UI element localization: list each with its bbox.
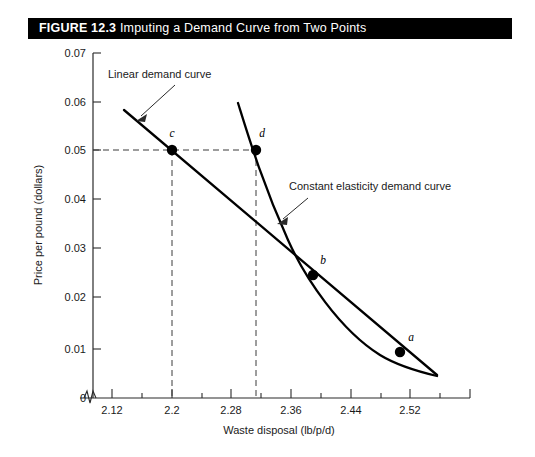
- x-axis-tick-labels: 2.12 2.2 2.28 2.36 2.44 2.52: [101, 404, 420, 416]
- data-point-label-d: d: [259, 127, 265, 139]
- y-tick-label: 0.05: [65, 144, 86, 156]
- data-point-d: [251, 145, 261, 155]
- x-axis-ticks: [112, 389, 470, 398]
- data-point-b: [308, 270, 318, 280]
- annotation-linear-leader-line: [141, 85, 175, 116]
- x-tick-label: 2.28: [220, 404, 241, 416]
- data-point-label-a: a: [408, 331, 414, 343]
- y-tick-label: 0.04: [65, 193, 86, 205]
- x-tick-label: 2.44: [340, 404, 361, 416]
- data-point-c: [167, 145, 177, 155]
- annotation-elasticity-leader-line: [283, 198, 308, 219]
- data-point-label-b: b: [320, 254, 326, 266]
- y-tick-label: 0.03: [65, 242, 86, 254]
- x-tick-label: 2.52: [399, 404, 420, 416]
- x-tick-label: 2.36: [280, 404, 301, 416]
- y-axis-ticks: [93, 53, 101, 349]
- data-point-a: [395, 347, 405, 357]
- x-tick-label: 2.12: [101, 404, 122, 416]
- data-point-label-c: c: [169, 127, 174, 139]
- y-axis-title: Price per pound (dollars): [32, 165, 44, 285]
- y-tick-label: 0.01: [65, 343, 86, 355]
- y-tick-label: 0.07: [65, 47, 86, 59]
- y-tick-label: 0.06: [65, 96, 86, 108]
- annotation-constant-elasticity-label: Constant elasticity demand curve: [289, 180, 451, 192]
- annotation-linear-demand-curve-label: Linear demand curve: [108, 68, 211, 80]
- x-tick-label: 2.2: [164, 404, 179, 416]
- y-tick-label: 0: [80, 392, 86, 404]
- chart-plot: 0.07 0.06 0.05 0.04 0.03 0.02 0.01 0 Pri…: [0, 0, 535, 457]
- y-tick-label: 0.02: [65, 291, 86, 303]
- x-axis-title: Waste disposal (lb/p/d): [223, 424, 334, 436]
- y-axis-tick-labels: 0.07 0.06 0.05 0.04 0.03 0.02 0.01 0: [65, 47, 86, 404]
- figure-container: FIGURE 12.3 Imputing a Demand Curve from…: [0, 0, 535, 457]
